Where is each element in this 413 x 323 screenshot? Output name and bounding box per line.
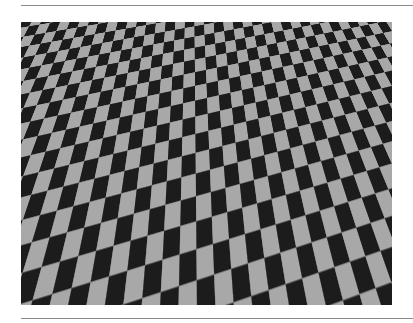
checkerboard-plane — [21, 22, 392, 305]
top-rule — [21, 5, 413, 6]
tile-grout — [21, 22, 392, 305]
checkerboard-image: perspective checkerboard floor — [21, 22, 392, 305]
bottom-rule — [21, 318, 413, 319]
